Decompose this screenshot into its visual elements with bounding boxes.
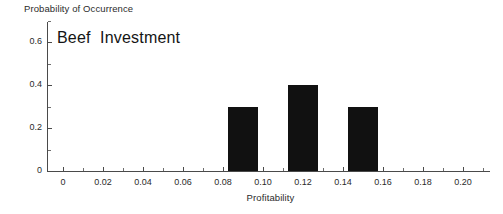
- chart-screenshot: Probability of Occurrence Beef Investmen…: [0, 0, 503, 214]
- x-tick-label: 0.16: [374, 177, 392, 187]
- x-tick: 0.16: [383, 171, 384, 172]
- y-tick-mark: [48, 21, 51, 22]
- y-tick: 0.4: [47, 85, 48, 86]
- y-tick: 0.6: [47, 42, 48, 43]
- x-tick-label: 0.10: [254, 177, 272, 187]
- x-tick-mark: [283, 168, 284, 171]
- y-tick-mark: [48, 107, 51, 108]
- x-tick: 0.04: [143, 171, 144, 172]
- x-tick-mark: [143, 167, 144, 171]
- x-tick-mark: [203, 168, 204, 171]
- bar: [288, 85, 318, 171]
- x-tick-mark: [443, 168, 444, 171]
- x-tick: [203, 171, 204, 172]
- x-tick-label: 0.12: [294, 177, 312, 187]
- x-tick-mark: [123, 168, 124, 171]
- x-tick-mark: [223, 167, 224, 171]
- x-tick-label: 0.04: [134, 177, 152, 187]
- x-tick-label: 0: [60, 177, 65, 187]
- y-tick: 0.2: [47, 128, 48, 129]
- y-tick-label: 0.6: [29, 36, 42, 46]
- x-axis-title: Profitability: [247, 192, 295, 203]
- x-tick-label: 0.18: [414, 177, 432, 187]
- x-tick-mark: [383, 167, 384, 171]
- x-tick-mark: [63, 167, 64, 171]
- x-tick: 0.18: [423, 171, 424, 172]
- x-tick-mark: [183, 167, 184, 171]
- bar: [348, 107, 378, 171]
- y-tick-label: 0: [37, 165, 42, 175]
- x-tick: 0.08: [223, 171, 224, 172]
- x-tick: 0.02: [103, 171, 104, 172]
- y-tick-mark: [48, 128, 52, 129]
- x-tick-mark: [323, 168, 324, 171]
- x-tick-label: 0.20: [454, 177, 472, 187]
- x-tick-mark: [403, 168, 404, 171]
- x-tick: [403, 171, 404, 172]
- y-tick-mark: [48, 171, 52, 172]
- x-tick-label: 0.06: [174, 177, 192, 187]
- x-tick-mark: [463, 167, 464, 171]
- y-tick-mark: [48, 42, 52, 43]
- x-tick: [243, 171, 244, 172]
- y-tick: [47, 107, 48, 108]
- x-tick-mark: [483, 168, 484, 171]
- y-axis-title: Probability of Occurrence: [24, 3, 133, 14]
- x-tick: [123, 171, 124, 172]
- x-tick-mark: [163, 168, 164, 171]
- y-tick-mark: [48, 64, 51, 65]
- x-axis-title-wrap: Profitability: [0, 192, 503, 203]
- x-tick: 0: [63, 171, 64, 172]
- x-tick: [283, 171, 284, 172]
- y-tick-label: 0.4: [29, 79, 42, 89]
- x-tick-mark: [263, 167, 264, 171]
- x-tick-label: 0.14: [334, 177, 352, 187]
- x-tick: [363, 171, 364, 172]
- y-tick-mark: [48, 150, 51, 151]
- x-tick: 0.06: [183, 171, 184, 172]
- x-tick: 0.14: [343, 171, 344, 172]
- x-tick: [83, 171, 84, 172]
- x-tick: [323, 171, 324, 172]
- bar: [228, 107, 258, 171]
- x-tick: [483, 171, 484, 172]
- y-tick: 0: [47, 171, 48, 172]
- plot-area: 00.20.40.6 00.020.040.060.080.100.120.14…: [47, 22, 490, 172]
- y-tick: [47, 21, 48, 22]
- x-tick-label: 0.08: [214, 177, 232, 187]
- y-tick-mark: [48, 85, 52, 86]
- x-tick-mark: [343, 167, 344, 171]
- x-tick: 0.20: [463, 171, 464, 172]
- x-tick: [443, 171, 444, 172]
- y-tick-label: 0.2: [29, 122, 42, 132]
- y-tick: [47, 150, 48, 151]
- x-tick-mark: [423, 167, 424, 171]
- x-tick: 0.10: [263, 171, 264, 172]
- x-tick-mark: [103, 167, 104, 171]
- x-tick: 0.12: [303, 171, 304, 172]
- x-tick-mark: [83, 168, 84, 171]
- x-tick-label: 0.02: [94, 177, 112, 187]
- y-tick: [47, 64, 48, 65]
- x-tick: [163, 171, 164, 172]
